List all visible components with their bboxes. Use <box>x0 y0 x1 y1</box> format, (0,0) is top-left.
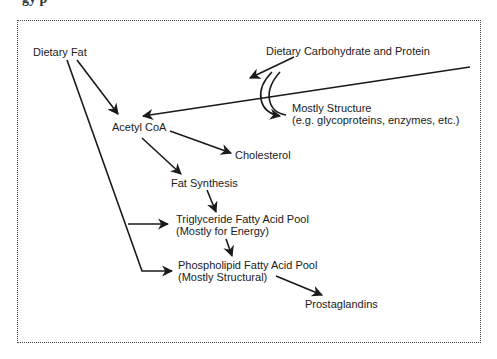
node-phospholipid-pool: Phospholipid Fatty Acid Pool (Mostly Str… <box>178 259 317 283</box>
node-triglyceride-pool: Triglyceride Fatty Acid Pool (Mostly for… <box>176 213 309 237</box>
edge-acetylcoa-to-cholesterol <box>170 131 231 153</box>
node-mostly-structure-line2: (e.g. glycoproteins, enzymes, etc.) <box>292 114 460 126</box>
node-acetyl-coa: Acetyl CoA <box>112 121 166 133</box>
node-dietary-fat: Dietary Fat <box>33 46 87 58</box>
edge-carb-to-structure-b <box>269 72 286 115</box>
node-phospholipid-pool-line2: (Mostly Structural) <box>178 271 317 283</box>
edge-acetylcoa-to-fatsynthesis <box>142 138 181 174</box>
edge-carb-to-acetylcoa-2 <box>250 57 294 78</box>
node-triglyceride-pool-line1: Triglyceride Fatty Acid Pool <box>176 213 309 225</box>
node-fat-synthesis: Fat Synthesis <box>171 177 238 189</box>
edge-carb-to-structure-a <box>261 72 280 116</box>
node-triglyceride-pool-line2: (Mostly for Energy) <box>176 225 309 237</box>
node-prostaglandins: Prostaglandins <box>305 298 378 310</box>
edge-fat-to-phospholipid <box>67 60 172 271</box>
node-phospholipid-pool-line1: Phospholipid Fatty Acid Pool <box>178 259 317 271</box>
node-cholesterol: Cholesterol <box>235 149 291 161</box>
node-dietary-carb-protein: Dietary Carbohydrate and Protein <box>266 45 430 57</box>
edge-fatsynthesis-to-triglyceride <box>207 190 216 212</box>
node-mostly-structure: Mostly Structure (e.g. glycoproteins, en… <box>292 102 460 126</box>
edge-triglyceride-to-phospholipid <box>226 239 232 256</box>
node-mostly-structure-line1: Mostly Structure <box>292 102 460 114</box>
